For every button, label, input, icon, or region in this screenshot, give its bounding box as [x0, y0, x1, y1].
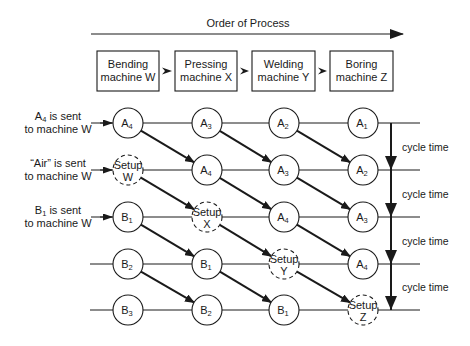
machine-label: machine W [100, 71, 156, 83]
part-node: B2 [192, 295, 222, 325]
cycle-arrowhead-icon [385, 156, 397, 170]
cycle-time-label: cycle time [402, 141, 449, 153]
cycle-time-label: cycle time [402, 188, 449, 200]
flow-arrow-icon [162, 68, 172, 75]
machine-box-x: Pressingmachine X [175, 51, 237, 91]
flow-arrow-icon [240, 68, 249, 75]
cycle-arrowhead-icon [385, 296, 397, 310]
machine-name: Welding [264, 58, 304, 70]
part-node: A1 [348, 108, 378, 138]
setup-node-z: SetupZ [348, 295, 378, 325]
cycle-time-label: cycle time [402, 235, 449, 247]
part-node: A2 [269, 108, 299, 138]
setup-machine: Z [360, 311, 367, 323]
transfer-arrow [297, 225, 350, 257]
setup-machine: Y [280, 265, 288, 277]
row-label: B1 is sentto machine W [24, 204, 92, 229]
machine-name: Pressing [185, 58, 228, 70]
part-node: A2 [348, 155, 378, 185]
part-node: B1 [192, 249, 222, 279]
svg-text:A4 is sent: A4 is sent [35, 110, 81, 124]
cycle-arrowhead-icon [385, 250, 397, 264]
part-node: B2 [113, 249, 143, 279]
part-node: A3 [269, 155, 299, 185]
row-label: “Air” is sentto machine W [24, 157, 92, 182]
setup-node-x: SetupX [192, 202, 222, 232]
transfer-arrow [141, 178, 194, 210]
svg-text:to machine W: to machine W [24, 170, 92, 182]
cycle-arrowhead-icon [385, 203, 397, 217]
part-node: A3 [192, 108, 222, 138]
svg-text:to machine W: to machine W [24, 123, 92, 135]
transfer-arrow [297, 131, 350, 163]
machine-box-w: Bendingmachine W [97, 51, 159, 91]
row-labels: A4 is sentto machine W“Air” is sentto ma… [24, 110, 92, 229]
transfer-arrow [220, 178, 271, 209]
cycle-time-label: cycle time [402, 281, 449, 293]
machine-row: Bendingmachine WPressingmachine XWelding… [97, 51, 393, 91]
transfer-arrow [220, 225, 271, 256]
order-of-process-title: Order of Process [206, 17, 290, 29]
part-node: B1 [269, 295, 299, 325]
setup-label: Setup [193, 206, 222, 218]
transfer-arrow [141, 131, 194, 163]
setup-label: Setup [270, 253, 299, 265]
setup-label: Setup [114, 159, 143, 171]
transfer-arrow [220, 131, 271, 162]
transfer-arrow [141, 225, 194, 257]
part-node: A4 [113, 108, 143, 138]
machine-label: machine Z [336, 71, 388, 83]
part-node: B3 [113, 295, 143, 325]
part-node: A4 [269, 202, 299, 232]
setup-node-y: SetupY [269, 249, 299, 279]
flow-arrow-icon [318, 68, 327, 75]
transfer-arrow [297, 178, 350, 210]
setup-machine: X [203, 218, 211, 230]
part-node: A3 [348, 202, 378, 232]
svg-text:to machine W: to machine W [24, 217, 92, 229]
svg-text:B1 is sent: B1 is sent [35, 204, 81, 218]
transfer-arrow [297, 272, 350, 303]
part-node: B1 [113, 202, 143, 232]
setup-machine: W [123, 171, 134, 183]
machine-box-y: Weldingmachine Y [252, 51, 315, 91]
machine-label: machine Y [258, 71, 310, 83]
setup-label: Setup [349, 299, 378, 311]
machine-box-z: Boringmachine Z [330, 51, 393, 91]
machine-name: Bending [108, 58, 148, 70]
part-node: A4 [192, 155, 222, 185]
transfer-arrow [220, 272, 271, 303]
machine-label: machine X [180, 71, 233, 83]
part-node: A4 [348, 249, 378, 279]
transfer-arrow [141, 272, 194, 303]
process-diagram: Order of Process Bendingmachine WPressin… [0, 0, 470, 346]
svg-text:“Air” is sent: “Air” is sent [30, 157, 86, 169]
machine-name: Boring [346, 58, 378, 70]
row-label: A4 is sentto machine W [24, 110, 92, 135]
setup-node-w: SetupW [113, 155, 143, 185]
